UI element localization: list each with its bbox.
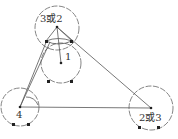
dot-top [56, 26, 59, 29]
label-top: 3或2 [40, 13, 63, 24]
dot-left [19, 106, 22, 109]
marker [45, 40, 48, 43]
label-mid: 1 [65, 51, 71, 62]
marker [138, 126, 141, 129]
edge-top-right [57, 27, 151, 108]
label-right: 2或3 [139, 112, 162, 123]
marker [70, 40, 73, 43]
marker [47, 80, 50, 83]
arc-left [26, 97, 38, 105]
edge-left-top-b [20, 40, 47, 107]
edge-left-right [20, 107, 151, 108]
edge-left-top-a [20, 42, 50, 107]
dot-mid [60, 62, 63, 65]
diagram-canvas: 3或2 1 4 2或3 [0, 0, 178, 139]
marker [157, 126, 160, 129]
marker [70, 80, 73, 83]
edge-top-mid [57, 27, 61, 63]
marker [12, 123, 15, 126]
label-left: 4 [16, 109, 22, 120]
marker [27, 123, 30, 126]
dot-right [150, 107, 153, 110]
